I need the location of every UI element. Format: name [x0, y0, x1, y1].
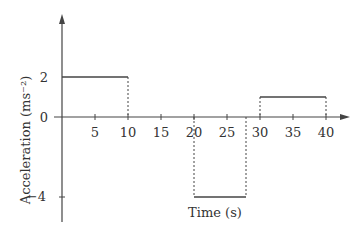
x-tick-25: 25	[219, 125, 236, 140]
y-axis-arrow-icon	[59, 14, 65, 24]
x-tick-10: 10	[120, 125, 137, 140]
x-axis-arrow-icon	[340, 114, 350, 120]
y-axis-label: Acceleration (ms⁻²)	[18, 76, 33, 205]
x-tick-15: 15	[153, 125, 170, 140]
x-axis-label: Time (s)	[188, 205, 242, 220]
acceleration-time-chart: 2 0 −4 5 10 15 20 25 30 35 40 Time (s) A…	[0, 0, 359, 233]
x-tick-30: 30	[252, 125, 269, 140]
x-tick-35: 35	[285, 125, 302, 140]
x-tick-5: 5	[91, 125, 99, 140]
x-tick-40: 40	[318, 125, 335, 140]
y-tick-0: 0	[40, 110, 48, 125]
x-tick-20: 20	[186, 125, 203, 140]
y-tick-2: 2	[40, 70, 48, 85]
